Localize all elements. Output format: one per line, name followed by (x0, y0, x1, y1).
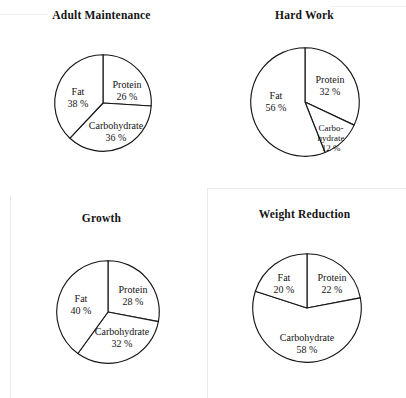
slice-label-fat: Fat 20 % (274, 272, 295, 295)
slice-label-carbohydrate: Carbohydrate 58 % (280, 332, 334, 355)
slice-label-fat-name: Fat (270, 90, 283, 101)
pie-chart-hard-work: Hard Work Protein 32 % Carbo- hydrate 12… (203, 0, 406, 199)
slice-label-protein: Protein 32 % (316, 74, 345, 97)
slice-label-protein-name: Protein (318, 272, 347, 283)
slice-label-carbohydrate: Carbo- hydrate 12 % (318, 123, 345, 153)
chart-title-adult-maintenance: Adult Maintenance (0, 9, 203, 21)
slice-label-protein: Protein 28 % (119, 284, 148, 307)
chart-title-hard-work: Hard Work (203, 9, 406, 21)
slice-label-fat: Fat 40 % (71, 293, 92, 316)
slice-label-fat-name: Fat (75, 293, 88, 304)
slice-label-protein-pct: 28 % (119, 295, 148, 307)
chart-title-weight-reduction: Weight Reduction (203, 208, 406, 220)
slice-label-protein: Protein 22 % (318, 272, 347, 295)
slice-label-carbohydrate-name: Carbohydrate (280, 332, 334, 343)
slice-label-protein: Protein 26 % (113, 79, 142, 102)
slice-label-carbohydrate: Carbohydrate 32 % (95, 326, 149, 349)
slice-label-fat-name: Fat (278, 272, 291, 283)
slice-label-protein-name: Protein (119, 284, 148, 295)
slice-label-fat-pct: 40 % (71, 304, 92, 316)
slice-label-fat: Fat 56 % (266, 90, 287, 113)
slice-label-protein-pct: 32 % (316, 85, 345, 97)
slice-label-carbohydrate-pct: 12 % (318, 143, 345, 153)
slice-label-protein-pct: 22 % (318, 283, 347, 295)
pie-chart-growth: Growth Protein 28 % Carbohydrate 32 % Fa… (0, 199, 203, 398)
slice-label-protein-name: Protein (316, 74, 345, 85)
slice-label-fat: Fat 38 % (68, 86, 89, 109)
pie-chart-weight-reduction: Weight Reduction Protein 22 % Carbohydra… (203, 199, 406, 398)
slice-label-carbohydrate-name: Carbo- (319, 123, 344, 133)
slice-label-fat-pct: 38 % (68, 97, 89, 109)
pie-chart-adult-maintenance: Adult Maintenance Protein 26 % Carbohydr… (0, 0, 203, 199)
slice-label-fat-pct: 56 % (266, 101, 287, 113)
slice-label-carbohydrate-name: Carbohydrate (89, 120, 143, 131)
slice-label-carbohydrate-pct: 36 % (89, 131, 143, 143)
slice-label-carbohydrate-name: Carbohydrate (95, 326, 149, 337)
slice-label-carbohydrate: Carbohydrate 36 % (89, 120, 143, 143)
slice-label-carbohydrate-pct: 32 % (95, 337, 149, 349)
chart-title-growth: Growth (0, 212, 203, 224)
slice-label-protein-pct: 26 % (113, 90, 142, 102)
slice-label-carbohydrate-name2: hydrate (318, 133, 345, 143)
slice-label-fat-pct: 20 % (274, 283, 295, 295)
slice-label-fat-name: Fat (72, 86, 85, 97)
slice-label-carbohydrate-pct: 58 % (280, 343, 334, 355)
slice-label-protein-name: Protein (113, 79, 142, 90)
